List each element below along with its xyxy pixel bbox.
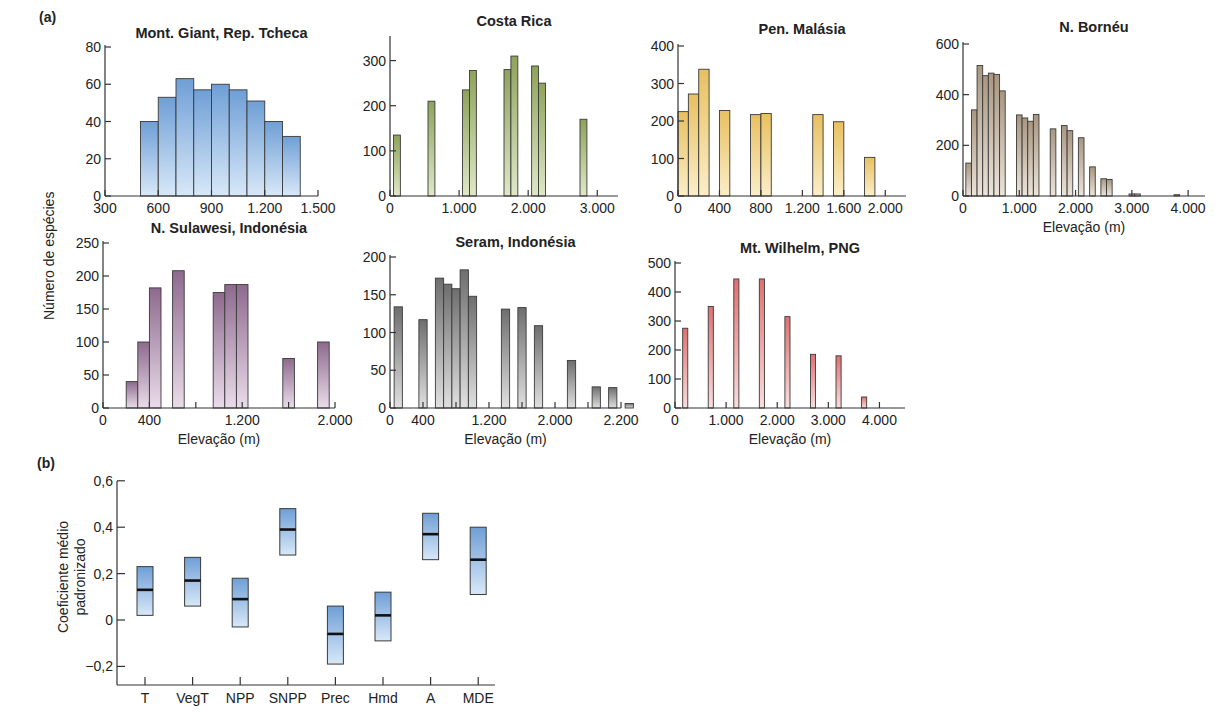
bar xyxy=(833,122,843,196)
y-tick-label: −0,2 xyxy=(85,658,113,674)
bar xyxy=(1107,180,1113,196)
bar xyxy=(971,110,977,196)
y-tick-label: 150 xyxy=(363,287,387,303)
chart-panel-0: 0204060803006009001.2001.500Mont. Giant,… xyxy=(85,25,335,216)
x-tick-label: 1.200 xyxy=(785,200,820,216)
y-tick-label: 200 xyxy=(648,342,672,358)
bar xyxy=(1090,167,1096,196)
bar xyxy=(1061,126,1067,196)
bar xyxy=(836,356,841,408)
bar xyxy=(609,388,617,408)
y-tick-label: 0 xyxy=(951,188,959,204)
x-tick-label: SNPP xyxy=(269,690,307,706)
x-tick-label: 300 xyxy=(93,200,117,216)
x-tick-label: 3.000 xyxy=(1114,200,1149,216)
bar xyxy=(393,135,400,196)
y-tick-label: 100 xyxy=(363,143,387,159)
bar xyxy=(1067,131,1073,196)
bar xyxy=(810,354,815,408)
y-tick-label: 0 xyxy=(378,188,386,204)
chart-title: Mt. Wilhelm, PNG xyxy=(740,240,860,256)
bar xyxy=(138,342,150,408)
x-tick-label: T xyxy=(141,690,150,706)
bar xyxy=(994,74,1000,196)
bar xyxy=(785,317,790,408)
bar xyxy=(518,308,526,408)
x-tick-label: 1.600 xyxy=(826,200,861,216)
bar xyxy=(683,328,688,408)
chart-panel-5: 05010015020004001.2002.0002.200Seram, In… xyxy=(363,234,639,447)
y-tick-label: 250 xyxy=(76,235,100,251)
bar xyxy=(751,115,761,196)
x-tick-label: 1.000 xyxy=(709,412,744,428)
x-tick-label: 800 xyxy=(749,200,773,216)
y-tick-label: 0,6 xyxy=(94,473,114,489)
y-axis-label-b-line2: padronizado xyxy=(72,517,89,637)
y-axis-label-a: Número de espécies xyxy=(41,192,57,320)
y-tick-label: 200 xyxy=(76,268,100,284)
x-tick-label: 2.200 xyxy=(603,412,638,428)
y-tick-label: 400 xyxy=(651,38,675,54)
x-tick-label: 2.000 xyxy=(317,412,352,428)
chart-panel-3: 020040060001.0002.0003.0004.000N. Bornéu… xyxy=(936,19,1206,235)
y-axis-label-b-line1: Coeficiente médio xyxy=(55,517,72,637)
chart-panel-2: 010020030040004008001.2001.6002.000Pen. … xyxy=(651,21,906,216)
bar xyxy=(534,326,542,408)
bar xyxy=(247,101,265,196)
y-tick-label: 0 xyxy=(663,400,671,416)
y-tick-label: 400 xyxy=(936,87,960,103)
y-tick-label: 100 xyxy=(363,325,387,341)
y-axis-label-b: Coeficiente médio padronizado xyxy=(55,517,89,637)
y-tick-label: 100 xyxy=(76,334,100,350)
x-axis-label: Elevação (m) xyxy=(178,431,260,447)
chart-title: Seram, Indonésia xyxy=(455,234,576,250)
bar xyxy=(708,307,713,409)
bar xyxy=(1078,138,1084,196)
x-tick-label: 2.000 xyxy=(868,200,903,216)
bar xyxy=(126,382,138,408)
bar xyxy=(469,71,476,196)
bar xyxy=(688,94,698,196)
y-tick-label: 0 xyxy=(91,400,99,416)
bar xyxy=(983,76,989,196)
x-tick-label: 900 xyxy=(200,200,224,216)
x-tick-label: 0 xyxy=(386,412,394,428)
chart-title: N. Sulawesi, Indonésia xyxy=(151,220,308,236)
bar xyxy=(225,285,237,408)
chart-panel-1: 010020030001.0002.0003.000Costa Rica xyxy=(363,13,618,216)
bar xyxy=(173,271,185,408)
range-box xyxy=(232,578,248,627)
y-tick-label: 80 xyxy=(85,39,101,55)
y-tick-label: 0,2 xyxy=(94,566,114,582)
y-tick-label: 100 xyxy=(651,151,675,167)
bar xyxy=(1050,129,1056,196)
y-tick-label: 500 xyxy=(648,255,672,271)
y-tick-label: 0 xyxy=(105,612,113,628)
y-tick-label: 50 xyxy=(83,367,99,383)
range-box xyxy=(280,509,296,555)
bar xyxy=(176,79,194,196)
x-tick-label: 1.000 xyxy=(442,200,477,216)
chart-title: Pen. Malásia xyxy=(758,21,846,37)
bar xyxy=(1016,115,1022,196)
x-axis-label: Elevação (m) xyxy=(749,431,831,447)
bar xyxy=(678,112,688,196)
y-tick-label: 40 xyxy=(85,114,101,130)
bar xyxy=(625,403,633,408)
bar xyxy=(229,90,247,196)
bar xyxy=(966,163,972,196)
bar xyxy=(699,69,709,196)
bar xyxy=(265,122,283,197)
figure: 0204060803006009001.2001.500Mont. Giant,… xyxy=(0,0,1232,728)
bar xyxy=(149,288,161,408)
y-tick-label: 0 xyxy=(666,188,674,204)
x-tick-label: 400 xyxy=(138,412,162,428)
bar xyxy=(444,284,452,408)
y-tick-label: 0,4 xyxy=(94,519,114,535)
bar xyxy=(988,73,994,196)
bar xyxy=(194,90,212,196)
y-tick-label: 600 xyxy=(936,36,960,52)
y-tick-label: 50 xyxy=(370,362,386,378)
y-tick-label: 200 xyxy=(936,137,960,153)
bar xyxy=(567,360,575,408)
